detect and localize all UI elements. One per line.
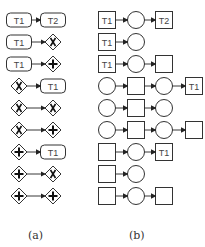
transition-box	[99, 188, 116, 205]
petri-row	[99, 166, 145, 183]
bpmn-row	[11, 122, 61, 138]
task-label: T1	[14, 16, 25, 26]
petri-row: T1	[99, 56, 173, 73]
place-circle	[99, 78, 116, 95]
petri-row	[99, 100, 173, 117]
petri-row: T1	[99, 34, 145, 51]
place-circle	[128, 12, 145, 29]
panel-b-label: (b)	[129, 229, 145, 242]
place-circle	[156, 100, 173, 117]
task-label: T1	[48, 82, 59, 92]
petri-row: T1	[99, 78, 203, 95]
transition-label: T1	[159, 148, 170, 158]
task-label: T1	[14, 60, 25, 70]
task-label: T2	[48, 16, 59, 26]
place-circle	[128, 144, 145, 161]
transition-box	[156, 188, 173, 205]
task-label: T1	[14, 38, 25, 48]
place-circle	[128, 166, 145, 183]
panel-a-bpmn: T1T2T1T1T1T1	[7, 13, 66, 204]
bpmn-to-petri-diagram: T1T2T1T1T1T1 T1T2T1T1T1T1	[0, 0, 205, 247]
transition-box	[128, 122, 145, 139]
task-label: T1	[48, 148, 59, 158]
transition-box	[186, 122, 203, 139]
bpmn-row	[11, 100, 61, 116]
transition-box	[128, 100, 145, 117]
bpmn-row: T1	[7, 34, 62, 50]
bpmn-row	[11, 166, 61, 182]
transition-box	[128, 78, 145, 95]
transition-label: T1	[189, 82, 200, 92]
transition-label: T2	[159, 16, 170, 26]
bpmn-row: T1	[11, 144, 66, 160]
transition-label: T1	[102, 38, 113, 48]
place-circle	[128, 188, 145, 205]
place-circle	[128, 56, 145, 73]
transition-label: T1	[102, 60, 113, 70]
transition-label: T1	[102, 16, 113, 26]
panel-b-petri-net: T1T2T1T1T1T1	[99, 12, 203, 205]
bpmn-row	[11, 188, 61, 204]
transition-box	[99, 166, 116, 183]
bpmn-row: T1	[11, 78, 66, 94]
transition-box	[156, 56, 173, 73]
place-circle	[128, 34, 145, 51]
panel-a-label: (a)	[28, 229, 43, 242]
place-circle	[99, 122, 116, 139]
transition-box	[99, 144, 116, 161]
petri-row: T1T2	[99, 12, 173, 29]
place-circle	[99, 100, 116, 117]
petri-row	[99, 188, 173, 205]
bpmn-row: T1	[7, 56, 62, 72]
place-circle	[156, 122, 173, 139]
bpmn-row: T1T2	[7, 13, 66, 27]
petri-row	[99, 122, 203, 139]
place-circle	[156, 78, 173, 95]
petri-row: T1	[99, 144, 173, 161]
